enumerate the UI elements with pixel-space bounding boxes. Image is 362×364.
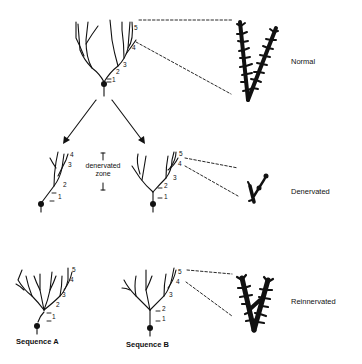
sequence-b-label: Sequence B [126,340,169,349]
neuron-sequence-a [16,268,72,334]
branch-order-2-den-a: 2 [63,181,67,188]
branch-order-4-den-b: 4 [178,160,182,167]
denervated-zone-line1: denervated [82,162,124,170]
branch-order-4-seq-b: 4 [176,278,180,285]
diagram-canvas [0,0,362,364]
branch-order-3-seq-b: 3 [169,291,173,298]
branch-order-2-seq-b: 2 [162,305,166,312]
branch-order-5-seq-b: 5 [178,268,182,275]
magnified-dendrite-normal [237,22,278,100]
branch-order-2-den-b: 2 [164,182,168,189]
branch-order-3-seq-a: 3 [62,291,66,298]
branch-order-4-den-a: 4 [70,151,74,158]
branch-order-5-seq-a: 5 [72,266,76,273]
branch-order-3-normal: 3 [123,61,127,68]
branch-order-3-den-b: 3 [173,174,177,181]
row-label-denervated: Denervated [291,187,330,196]
branch-order-2-seq-a: 2 [56,301,60,308]
branch-order-1-seq-a: 1 [52,313,56,320]
branch-order-4-seq-a: 4 [70,276,74,283]
denervated-zone-label: denervated zone [82,162,124,178]
branch-order-1-normal: 1 [112,76,116,83]
branch-order-1-den-b: 1 [164,193,168,200]
magnified-dendrite-reinnervated [237,275,273,330]
branch-order-5-den-b: 5 [179,150,183,157]
denervated-zone-line2: zone [82,170,124,178]
row-label-normal: Normal [291,57,315,66]
branch-order-3-den-a: 3 [68,161,72,168]
branch-order-5-normal: 5 [134,24,138,31]
sequence-a-label: Sequence A [16,337,59,346]
branch-order-1-den-a: 1 [58,193,62,200]
branch-order-1-seq-b: 1 [162,315,166,322]
branch-order-2-normal: 2 [116,68,120,75]
row-label-reinnervated: Reinnervated [291,297,336,306]
branch-order-4-normal: 4 [132,44,136,51]
magnified-dendrite-denervated [248,174,269,203]
